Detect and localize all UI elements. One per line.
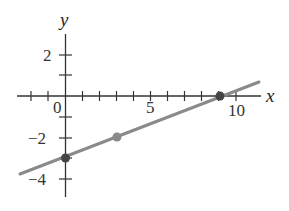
tick-label-x10: 10: [228, 101, 245, 120]
tick-label-yneg2: −2: [28, 129, 46, 148]
tick-label-origin: 0: [53, 98, 62, 117]
tick-label-y2: 2: [43, 46, 52, 65]
line-graph: y x 0 5 10 2 −2 −4: [0, 0, 289, 211]
point-mid: [113, 133, 122, 142]
point-x-intercept: [216, 92, 225, 101]
y-axis-label: y: [58, 9, 69, 30]
tick-label-yneg4: −4: [28, 170, 47, 189]
x-axis-label: x: [265, 85, 275, 106]
tick-label-x5: 5: [146, 98, 155, 117]
point-y-intercept: [61, 154, 70, 163]
